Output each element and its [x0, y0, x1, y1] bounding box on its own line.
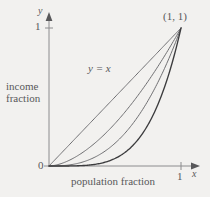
y-tick-label-one: 1 [35, 20, 41, 32]
origin-label: 0 [38, 159, 44, 171]
lorenz-curve-figure: y 1 (1, 1) y = x income fraction 0 1 x p… [0, 0, 210, 197]
corner-point-label: (1, 1) [163, 10, 187, 22]
y-axis-title-line2: fraction [6, 92, 40, 104]
y-axis-label: y [38, 5, 42, 16]
y-axis-title-line1: income [6, 80, 40, 92]
curve-group [49, 28, 181, 166]
x-axis-label: x [192, 168, 196, 179]
x-axis-title: population fraction [71, 175, 155, 187]
diagonal-equation-label: y = x [88, 62, 111, 74]
y-axis-title: income fraction [6, 80, 40, 105]
y-axis-arrowhead [46, 12, 53, 21]
x-tick-label-one: 1 [177, 170, 183, 182]
